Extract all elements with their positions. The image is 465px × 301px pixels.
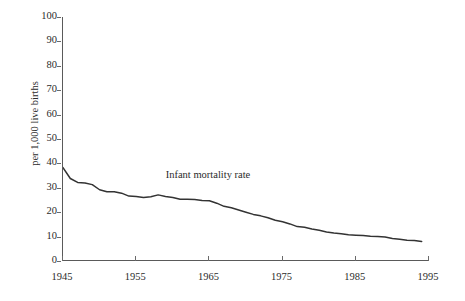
y-tick-mark xyxy=(57,115,61,116)
y-tick-mark xyxy=(57,17,61,18)
y-tick-mark xyxy=(57,90,61,91)
x-tick-label: 1965 xyxy=(198,272,219,283)
x-tick-mark xyxy=(62,256,63,261)
x-tick-label: 1985 xyxy=(344,272,365,283)
x-tick-label: 1975 xyxy=(271,272,292,283)
x-tick-mark xyxy=(428,256,429,261)
y-tick-label: 70 xyxy=(47,84,58,95)
series-annotation-label: Infant mortality rate xyxy=(166,169,251,180)
x-tick-label: 1945 xyxy=(52,272,73,283)
y-tick-mark xyxy=(57,188,61,189)
y-tick-label: 30 xyxy=(47,182,58,193)
y-tick-mark xyxy=(57,237,61,238)
x-tick-label: 1995 xyxy=(418,272,439,283)
y-tick-label: 60 xyxy=(47,109,58,120)
y-tick-label: 90 xyxy=(47,35,58,46)
data-series-svg xyxy=(63,17,429,261)
y-tick-label: 10 xyxy=(47,231,58,242)
y-tick-label: 50 xyxy=(47,133,58,144)
y-tick-mark xyxy=(57,212,61,213)
y-tick-mark xyxy=(57,41,61,42)
y-tick-label: 100 xyxy=(41,11,57,22)
x-tick-mark xyxy=(355,256,356,261)
infant-mortality-chart: 0102030405060708090100 per 1,000 live bi… xyxy=(0,0,465,301)
x-tick-mark xyxy=(282,256,283,261)
x-tick-label: 1955 xyxy=(125,272,146,283)
x-tick-mark xyxy=(135,256,136,261)
y-tick-mark xyxy=(57,261,61,262)
y-tick-mark xyxy=(57,139,61,140)
y-tick-label: 40 xyxy=(47,157,58,168)
plot-area xyxy=(62,17,428,261)
y-tick-label: 20 xyxy=(47,206,58,217)
y-axis-title: per 1,000 live births xyxy=(29,49,40,199)
y-tick-label: 80 xyxy=(47,60,58,71)
x-tick-mark xyxy=(208,256,209,261)
y-tick-mark xyxy=(57,163,61,164)
y-tick-mark xyxy=(57,66,61,67)
